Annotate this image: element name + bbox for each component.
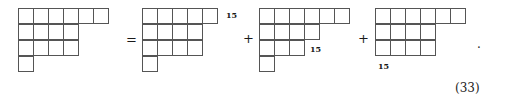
young-diagram-cell	[78, 8, 94, 24]
young-diagram-cell	[33, 40, 49, 56]
young-diagram-row	[375, 9, 466, 25]
young-diagram-cell	[48, 40, 64, 56]
young-diagram-cell	[259, 40, 275, 56]
young-diagram-row	[259, 25, 350, 41]
young-diagram-cell	[304, 8, 320, 24]
young-diagram-cell	[157, 24, 173, 40]
young-diagram-cell	[172, 8, 188, 24]
young-diagram-term-3	[375, 9, 466, 57]
young-diagram-rows	[18, 9, 109, 73]
young-diagram-row	[142, 25, 218, 41]
young-diagram-cell	[142, 56, 158, 72]
young-diagram-lhs	[18, 9, 109, 73]
young-diagram-row	[142, 41, 218, 57]
young-diagram-cell	[390, 40, 406, 56]
young-diagram-cell	[450, 8, 466, 24]
young-diagram-row	[18, 25, 109, 41]
young-diagram-cell	[405, 24, 421, 40]
young-diagram-cell	[405, 8, 421, 24]
young-diagram-rows	[259, 9, 350, 73]
young-diagram-cell	[33, 8, 49, 24]
equation-number: (33)	[455, 82, 480, 94]
young-diagram-rows	[375, 9, 466, 57]
plus-sign-2: +	[358, 32, 369, 45]
young-diagram-row	[375, 25, 466, 41]
young-diagram-cell	[375, 40, 391, 56]
terminal-period: .	[477, 38, 481, 50]
young-diagram-cell	[48, 8, 64, 24]
young-diagram-term-1	[142, 9, 218, 73]
young-diagram-cell	[289, 8, 305, 24]
young-diagram-cell	[274, 24, 290, 40]
young-diagram-cell	[187, 24, 203, 40]
young-diagram-row	[142, 9, 218, 25]
young-diagram-cell	[187, 40, 203, 56]
young-diagram-cell	[420, 24, 436, 40]
equals-sign: =	[126, 33, 137, 46]
young-diagram-rows	[142, 9, 218, 73]
young-diagram-cell	[202, 8, 218, 24]
young-diagram-term-2	[259, 9, 350, 73]
young-diagram-cell	[289, 24, 305, 40]
young-diagram-cell	[142, 24, 158, 40]
young-diagram-cell	[420, 40, 436, 56]
young-diagram-cell	[334, 8, 350, 24]
added-cell-label-term-3: 15	[378, 62, 389, 70]
young-diagram-cell	[18, 8, 34, 24]
young-diagram-cell	[375, 8, 391, 24]
young-diagram-row	[259, 41, 350, 57]
young-diagram-cell	[304, 24, 320, 40]
young-diagram-cell	[420, 8, 436, 24]
young-diagram-cell	[259, 8, 275, 24]
young-diagram-cell	[375, 24, 391, 40]
plus-sign-1: +	[243, 32, 254, 45]
added-cell-label-term-1: 15	[226, 11, 237, 19]
young-diagram-cell	[142, 8, 158, 24]
young-diagram-row	[259, 9, 350, 25]
young-diagram-cell	[274, 8, 290, 24]
equation-figure: = 15 + 15 + 15 . (33)	[0, 0, 506, 106]
young-diagram-cell	[172, 24, 188, 40]
young-diagram-cell	[435, 8, 451, 24]
young-diagram-cell	[274, 40, 290, 56]
young-diagram-cell	[289, 40, 305, 56]
young-diagram-row	[18, 9, 109, 25]
young-diagram-cell	[157, 8, 173, 24]
young-diagram-cell	[390, 24, 406, 40]
young-diagram-cell	[319, 8, 335, 24]
young-diagram-row	[18, 57, 109, 73]
young-diagram-row	[375, 41, 466, 57]
young-diagram-row	[18, 41, 109, 57]
young-diagram-cell	[63, 8, 79, 24]
young-diagram-cell	[63, 24, 79, 40]
young-diagram-cell	[33, 24, 49, 40]
young-diagram-cell	[18, 56, 34, 72]
young-diagram-cell	[18, 40, 34, 56]
young-diagram-cell	[259, 24, 275, 40]
young-diagram-cell	[259, 56, 275, 72]
young-diagram-cell	[390, 8, 406, 24]
young-diagram-cell	[157, 40, 173, 56]
young-diagram-cell	[18, 24, 34, 40]
young-diagram-cell	[63, 40, 79, 56]
young-diagram-row	[142, 57, 218, 73]
young-diagram-cell	[48, 24, 64, 40]
young-diagram-cell	[172, 40, 188, 56]
added-cell-label-term-2: 15	[310, 45, 321, 53]
young-diagram-row	[259, 57, 350, 73]
young-diagram-cell	[187, 8, 203, 24]
young-diagram-cell	[93, 8, 109, 24]
young-diagram-cell	[405, 40, 421, 56]
young-diagram-cell	[142, 40, 158, 56]
